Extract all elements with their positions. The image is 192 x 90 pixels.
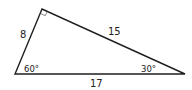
triangle-diagram: 8 15 17 60° 30° <box>0 0 192 90</box>
side-label-left: 8 <box>20 29 26 40</box>
triangle-shape <box>15 9 185 74</box>
angle-label-bottom-right: 30° <box>141 64 156 74</box>
triangle-svg: 8 15 17 60° 30° <box>0 0 192 90</box>
right-angle-marker <box>41 12 48 16</box>
angle-label-bottom-left: 60° <box>24 64 39 74</box>
side-label-bottom: 17 <box>90 78 103 89</box>
side-label-top-right: 15 <box>108 26 121 37</box>
